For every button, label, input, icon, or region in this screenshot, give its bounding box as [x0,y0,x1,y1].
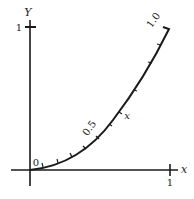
curve-variable-label: x [124,110,130,121]
curve-mid-label: 0.5 [80,118,98,137]
diagram-canvas: Y 1 x 1 0 0.5 x 1.0 [0,0,194,199]
y-tick-label: 1 [16,22,22,33]
curve-start-label: 0 [33,157,39,168]
curve [30,27,169,170]
x-tick-label: 1 [167,177,173,188]
curve-end-label: 1.0 [144,10,162,29]
x-axis-label: x [181,163,188,176]
y-axis-label: Y [24,6,33,19]
curve-ticks [42,44,161,167]
